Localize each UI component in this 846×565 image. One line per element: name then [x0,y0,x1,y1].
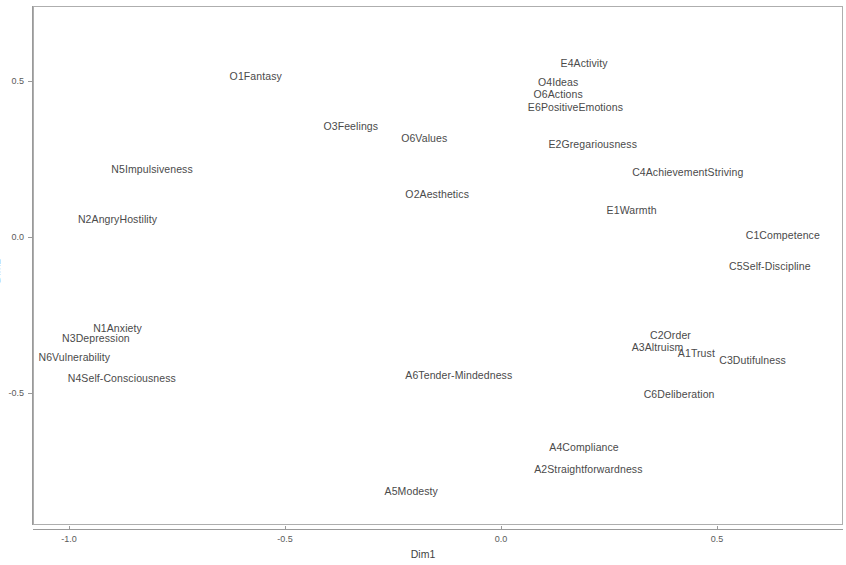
plot-area-frame: E5Excitement-SeekingE3AssertivenessO1Fan… [33,6,843,525]
data-point-label: E1Warmth [607,204,657,215]
x-axis-line [33,529,843,530]
data-point-label: C4AchievementStriving [632,167,743,178]
data-point-label: C6Deliberation [644,389,715,400]
x-axis-tick-label: -1.0 [61,534,77,544]
x-axis-tick-label: 0.5 [711,534,724,544]
y-axis-title: Dim2 [0,259,2,284]
data-point-label: A6Tender-Mindedness [405,370,512,381]
y-axis-tick-label: 0.5 [11,76,24,86]
y-axis-tick [28,393,32,394]
data-point-label: E2Gregariousness [548,139,637,150]
data-point-label: N3Depression [62,332,130,343]
y-axis-line [32,6,33,525]
data-point-label: A3Altruism [632,342,684,353]
data-point-label: E4Activity [561,58,608,69]
data-point-label: O4Ideas [538,77,578,88]
data-point-label: O1Fantasy [230,70,282,81]
data-point-label: O2Aesthetics [405,189,469,200]
data-point-label: N2AngryHostility [78,214,157,225]
x-axis-tick [285,526,286,530]
data-point-label: A5Modesty [385,485,438,496]
data-point-label: A4Compliance [549,442,619,453]
y-axis-tick [28,81,32,82]
data-point-label: C2Order [650,329,691,340]
x-axis-tick-label: -0.5 [277,534,293,544]
x-axis-tick-label: 0.0 [495,534,508,544]
x-axis-tick [69,526,70,530]
data-point-label: A2Straightforwardness [534,463,642,474]
data-point-label: O6Actions [533,89,582,100]
x-axis-tick [501,526,502,530]
data-point-layer: E5Excitement-SeekingE3AssertivenessO1Fan… [34,7,842,524]
data-point-label: C5Self-Discipline [729,261,811,272]
y-axis-tick-label: -0.5 [8,388,24,398]
data-point-label: N6Vulnerability [38,351,110,362]
y-axis-tick [28,237,32,238]
data-point-label: N5Impulsiveness [111,164,192,175]
x-axis-title: Dim1 [0,548,846,560]
data-point-label: C1Competence [746,229,820,240]
scatter-plot-figure: E5Excitement-SeekingE3AssertivenessO1Fan… [0,0,846,565]
data-point-label: O3Feelings [323,120,378,131]
y-axis-tick-label: 0.0 [11,232,24,242]
x-axis-tick [717,526,718,530]
data-point-label: C3Dutifulness [719,354,786,365]
data-point-label: N4Self-Consciousness [68,373,176,384]
data-point-label: E6PositiveEmotions [528,101,623,112]
data-point-label: O6Values [401,133,447,144]
data-point-label: A1Trust [678,348,715,359]
